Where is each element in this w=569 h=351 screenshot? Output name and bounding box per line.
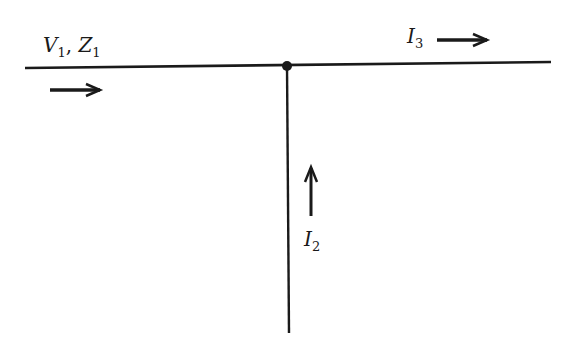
diagram-canvas: V1, Z1 I3 I2: [0, 0, 569, 351]
current-label-i2: I2: [303, 227, 320, 254]
line-label-v1-z1: V1, Z1: [43, 33, 101, 60]
branch-line: [287, 66, 289, 333]
current-i3-arrow-icon: [437, 34, 487, 46]
junction-node: [282, 61, 292, 71]
current-label-i3: I3: [406, 24, 423, 51]
current-i2-arrow-icon: [305, 167, 317, 216]
incident-current-arrow-icon: [50, 84, 100, 96]
